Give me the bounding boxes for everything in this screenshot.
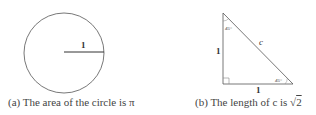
caption-b: (b) The length of c is √2 <box>195 96 302 108</box>
circle-diagram: 1 <box>24 13 104 93</box>
top-angle-arc <box>223 19 229 21</box>
right-angle-arc <box>285 78 287 84</box>
bottom-right-angle-label: 45° <box>275 78 282 83</box>
caption-b-text: (b) The length of c is <box>195 96 290 108</box>
unit-circle <box>24 13 104 93</box>
horizontal-side-label: 1 <box>256 85 261 95</box>
top-angle-label: 45° <box>225 26 232 31</box>
hypotenuse-label: c <box>259 37 263 47</box>
radius-label: 1 <box>81 40 86 50</box>
right-triangle <box>223 13 293 84</box>
caption-a: (a) The area of the circle is π <box>8 96 135 108</box>
right-angle-marker <box>223 78 229 84</box>
triangle-diagram: 45° 45° c 1 1 <box>216 13 293 95</box>
vertical-side-label: 1 <box>216 46 221 56</box>
sqrt-value: 2 <box>296 96 302 108</box>
